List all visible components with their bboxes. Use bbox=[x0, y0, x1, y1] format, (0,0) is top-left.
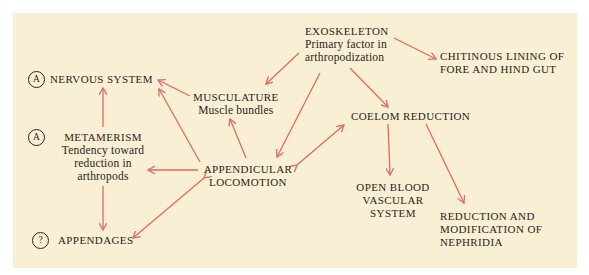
exoskeleton-title: EXOSKELETON bbox=[305, 25, 389, 38]
nervous-system-title: NERVOUS SYSTEM bbox=[50, 73, 153, 86]
edge-musculature-nervous bbox=[158, 80, 190, 96]
node-exoskeleton: EXOSKELETON Primary factor in arthropodi… bbox=[305, 25, 389, 64]
badge-appendages: ? bbox=[32, 232, 49, 249]
nephridia-line2: MODIFICATION OF bbox=[440, 223, 542, 236]
coelom-title: COELOM REDUCTION bbox=[351, 110, 470, 123]
node-open-blood-vascular-system: OPEN BLOOD VASCULAR SYSTEM bbox=[354, 181, 432, 220]
node-appendicular-locomotion: APPENDICULAR LOCOMOTION bbox=[203, 163, 293, 189]
edge-exoskeleton-coelom bbox=[350, 68, 388, 107]
metamerism-subtitle-line2: reduction in bbox=[58, 157, 148, 170]
edge-exoskeleton-musculature bbox=[266, 53, 299, 84]
badge-metamerism: A bbox=[28, 129, 45, 146]
exoskeleton-subtitle-line2: arthropodization bbox=[305, 51, 389, 64]
appendicular-line2: LOCOMOTION bbox=[203, 176, 293, 189]
node-nephridia: REDUCTION AND MODIFICATION OF NEPHRIDIA bbox=[440, 210, 542, 249]
edge-exoskeleton-appendicular bbox=[277, 73, 320, 157]
metamerism-title: METAMERISM bbox=[58, 131, 148, 144]
appendicular-line1: APPENDICULAR bbox=[203, 163, 293, 176]
node-metamerism: METAMERISM Tendency toward reduction in … bbox=[58, 131, 148, 183]
open-blood-line2: VASCULAR bbox=[354, 194, 432, 207]
metamerism-subtitle-line1: Tendency toward bbox=[58, 144, 148, 157]
node-nervous-system: NERVOUS SYSTEM bbox=[50, 73, 153, 86]
chitinous-line2: FORE AND HIND GUT bbox=[440, 63, 564, 76]
node-chitinous-lining: CHITINOUS LINING OF FORE AND HIND GUT bbox=[440, 50, 564, 76]
edge-appendicular-coelom bbox=[297, 125, 344, 165]
musculature-subtitle: Muscle bundles bbox=[193, 104, 279, 117]
chitinous-line1: CHITINOUS LINING OF bbox=[440, 50, 564, 63]
nephridia-line3: NEPHRIDIA bbox=[440, 236, 542, 249]
musculature-title: MUSCULATURE bbox=[193, 91, 279, 104]
open-blood-line1: OPEN BLOOD bbox=[354, 181, 432, 194]
open-blood-line3: SYSTEM bbox=[354, 207, 432, 220]
appendages-title: APPENDAGES bbox=[58, 234, 134, 247]
metamerism-subtitle-line3: arthropods bbox=[58, 170, 148, 183]
node-appendages: APPENDAGES bbox=[58, 234, 134, 247]
edge-coelom-open-blood bbox=[388, 124, 390, 175]
node-musculature: MUSCULATURE Muscle bundles bbox=[193, 91, 279, 117]
nephridia-line1: REDUCTION AND bbox=[440, 210, 542, 223]
exoskeleton-subtitle-line1: Primary factor in bbox=[305, 38, 389, 51]
edge-exoskeleton-chitinous bbox=[394, 38, 436, 59]
edge-appendicular-musculature bbox=[230, 119, 246, 158]
edge-appendicular-appendages bbox=[133, 178, 204, 238]
node-coelom-reduction: COELOM REDUCTION bbox=[351, 110, 470, 123]
badge-nervous-system: A bbox=[28, 71, 45, 88]
